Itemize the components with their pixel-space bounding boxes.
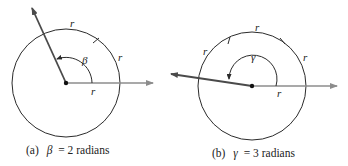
caption-a-prefix: (a) [26,144,39,157]
figure-b: γ r r r r (b) γ = 3 radians [171,21,337,160]
caption-a-value: = 2 radians [58,144,110,156]
caption-a-symbol: β [46,144,53,157]
caption-b: (b) γ = 3 radians [212,147,295,160]
center-dot-b [250,84,254,88]
arc-tick-b-1 [280,38,285,44]
caption-b-prefix: (b) [212,147,226,160]
arc-label-a-2: r [70,17,75,29]
caption-b-value: = 3 radians [244,147,296,159]
terminal-ray-a [32,8,66,83]
arc-label-a-1: r [118,51,123,63]
arc-tick-b-2 [228,37,230,44]
radius-label-b: r [277,87,282,99]
figure-a: β r r r (a) β = 2 radians [12,8,153,157]
angle-symbol-a: β [81,54,88,66]
caption-a: (a) β = 2 radians [26,144,110,157]
angle-symbol-b: γ [251,51,256,63]
radius-label-a: r [91,85,96,97]
arc-label-b-2: r [255,21,260,33]
center-dot-a [64,81,68,85]
radian-diagrams: β r r r (a) β = 2 radians γ r r r r (b) … [0,0,348,166]
arc-label-b-3: r [203,45,208,57]
arc-label-b-1: r [303,51,308,63]
caption-b-symbol: γ [233,147,238,160]
arc-tick-a [93,38,99,43]
terminal-ray-b [171,74,252,86]
